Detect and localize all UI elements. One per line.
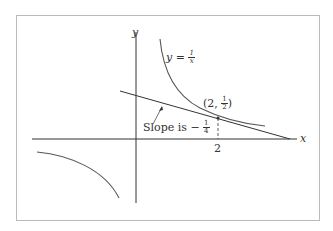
arrowhead-icon xyxy=(159,106,163,111)
fraction: 14 xyxy=(203,120,209,135)
denominator: x xyxy=(190,58,194,65)
denominator: 2 xyxy=(222,104,226,111)
frame xyxy=(17,16,320,221)
fraction: 1x xyxy=(188,50,194,65)
x-axis-label: x xyxy=(300,132,306,145)
denominator: 4 xyxy=(204,128,208,135)
point-label: (2, 12) xyxy=(203,96,232,111)
curve-lower-branch xyxy=(37,152,119,198)
slope-text: Slope is − xyxy=(143,121,200,134)
point-label-open: (2, xyxy=(203,97,218,110)
y-axis-label: y xyxy=(132,26,138,39)
tick-label-2: 2 xyxy=(214,142,221,155)
curve-label: y = 1x xyxy=(166,50,195,65)
diagram-canvas xyxy=(0,0,333,231)
tangent-point xyxy=(217,117,220,120)
point-label-close: ) xyxy=(228,97,232,110)
slope-label: Slope is − 14 xyxy=(143,120,210,135)
curve-label-lhs: y = xyxy=(166,51,185,64)
